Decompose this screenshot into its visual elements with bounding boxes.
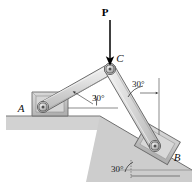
statics-figure: P 30° 30° 30° [0, 0, 193, 193]
angle-label-cb: 30° [132, 79, 145, 89]
angle-label-incline: 30° [111, 164, 124, 174]
joint-label-c: C [116, 52, 124, 64]
force-label-p: P [102, 6, 109, 18]
pin-joint-a [39, 103, 47, 111]
angle-label-ac: 30° [92, 93, 105, 103]
joint-label-b: B [174, 151, 181, 163]
joint-label-a: A [17, 102, 25, 114]
pin-joint-c [106, 65, 114, 73]
pin-joint-b [151, 142, 159, 150]
figure-canvas: P 30° 30° 30° [0, 0, 193, 193]
